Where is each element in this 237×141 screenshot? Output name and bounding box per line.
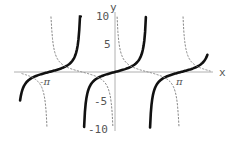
x-axis-label: x bbox=[219, 66, 226, 79]
y-tick-neg10: -10 bbox=[88, 123, 108, 136]
x-tick-pi: π bbox=[175, 76, 183, 87]
cot-curve bbox=[183, 17, 211, 72]
y-tick-5: 5 bbox=[104, 38, 111, 51]
y-tick-neg5: -5 bbox=[94, 95, 107, 108]
tan-curve bbox=[150, 55, 207, 128]
tan-cot-plot: x y 10 5 -5 -10 -π π bbox=[0, 0, 237, 141]
y-axis-label: y bbox=[110, 1, 117, 14]
y-tick-10: 10 bbox=[96, 10, 109, 23]
x-tick-neg-pi: -π bbox=[40, 76, 50, 87]
tan-curve bbox=[20, 17, 81, 101]
